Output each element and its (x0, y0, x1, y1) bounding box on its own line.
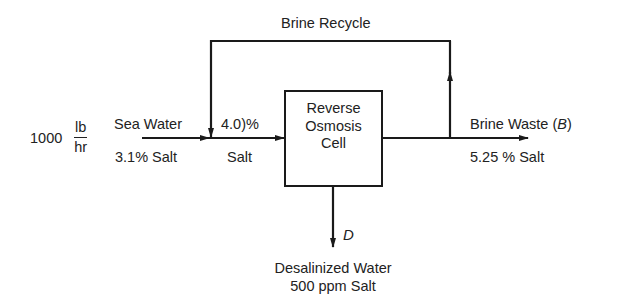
feed-rate-unit: lb hr (74, 120, 87, 154)
brine-waste-composition: 5.25 % Salt (470, 150, 544, 165)
brine-waste-name-text: Brine Waste ( (470, 116, 557, 132)
product-name: Desalinized Water (233, 261, 433, 276)
product-label: Desalinized Water 500 ppm Salt (233, 261, 433, 293)
recycle-label: Brine Recycle (281, 16, 370, 31)
feed-rate-unit-numerator: lb (74, 120, 87, 138)
mixed-stream-composition-unit: Salt (227, 150, 252, 165)
brine-waste-name: Brine Waste (B) (470, 117, 572, 132)
mixed-stream-composition: 4.0)% (221, 117, 259, 132)
feed-stream-name: Sea Water (114, 117, 182, 132)
cell-label-line1: Reverse (285, 101, 382, 116)
feed-rate-value: 1000 (30, 131, 62, 146)
cell-label-line2: Osmosis (285, 119, 382, 134)
feed-stream-composition: 3.1% Salt (115, 150, 177, 165)
reverse-osmosis-cell-label: Reverse Osmosis Cell (285, 101, 382, 151)
brine-waste-symbol: B (557, 116, 567, 132)
brine-waste-name-close: ) (567, 116, 572, 132)
feed-rate-unit-denominator: hr (74, 138, 87, 155)
product-symbol: D (343, 227, 354, 242)
cell-label-line3: Cell (285, 136, 382, 151)
product-composition: 500 ppm Salt (233, 279, 433, 294)
